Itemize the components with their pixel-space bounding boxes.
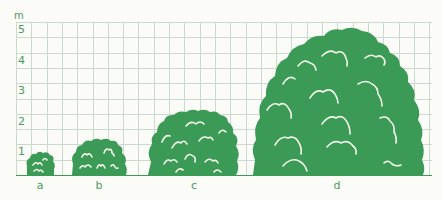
shrub-label-d: d — [327, 179, 347, 192]
y-tick-2: 2 — [18, 115, 25, 128]
shrubs — [26, 28, 424, 175]
y-tick-1: 1 — [18, 145, 25, 158]
shrub-d — [253, 28, 425, 175]
shrub-a — [26, 152, 54, 175]
shrub-size-diagram: m 5 4 3 2 1 a b c d — [0, 0, 442, 200]
shrub-label-b: b — [89, 179, 109, 192]
y-tick-4: 4 — [18, 54, 25, 67]
y-tick-5: 5 — [18, 23, 25, 36]
shrub-label-a: a — [30, 179, 50, 192]
y-tick-3: 3 — [18, 84, 25, 97]
shrub-label-c: c — [184, 179, 204, 192]
shrub-c — [148, 110, 239, 175]
grid — [0, 0, 442, 200]
y-axis-unit-label: m — [14, 10, 24, 21]
